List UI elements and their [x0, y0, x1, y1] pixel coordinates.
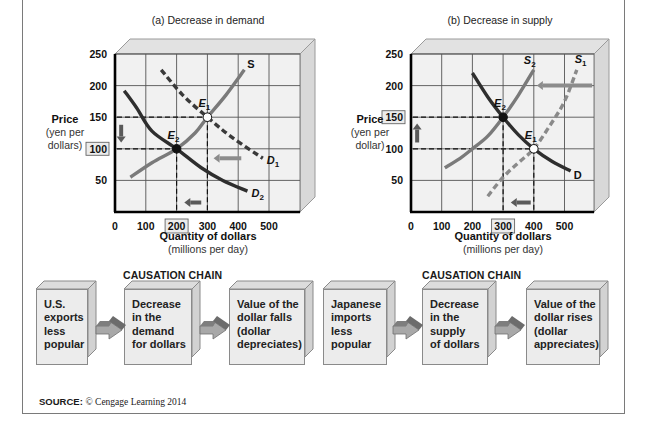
causation-step-line: depreciates) — [237, 338, 304, 351]
chart-b-decrease-in-supply: S2S1DE2E1(b) Decrease in supply501001502… — [351, 14, 609, 255]
curve-label-subscript: 1 — [582, 59, 587, 68]
x-tick-label: 500 — [556, 220, 574, 232]
causation-step-line: supply — [430, 325, 487, 338]
box-top-face — [229, 281, 313, 289]
source-text: © Cengage Learning 2014 — [85, 397, 186, 407]
panel-side-face — [300, 39, 315, 212]
x-axis-label: Quantity of dollars — [454, 230, 551, 242]
causation-step-box: Decreasein thesupplyof dollars — [422, 289, 496, 365]
causation-step-line: demand — [132, 325, 191, 338]
x-tick-label: 0 — [112, 220, 118, 232]
x-tick-label: 500 — [260, 220, 278, 232]
y-tick-label: 50 — [95, 174, 107, 186]
causation-step-box: Value of thedollar falls(dollardepreciat… — [229, 289, 313, 365]
causation-chain-title-b: CAUSATION CHAIN — [422, 269, 521, 281]
y-tick-label: 250 — [385, 48, 403, 60]
x-axis-sublabel: (millions per day) — [168, 243, 248, 255]
curve-label-subscript: 2 — [531, 60, 536, 69]
y-tick-label: 150 — [385, 111, 403, 123]
y-axis-sublabel: (yen per — [351, 126, 390, 138]
box-side-face — [88, 281, 96, 357]
causation-step-line: less — [44, 325, 87, 338]
causation-step-line: less — [331, 325, 386, 338]
causation-step-text: Japaneseimportslesspopular — [323, 289, 387, 365]
x-axis-sublabel: (millions per day) — [463, 243, 543, 255]
y-tick-label: 250 — [89, 48, 107, 60]
causation-step-line: appreciates) — [534, 338, 599, 351]
causation-step-line: dollar rises — [534, 311, 599, 324]
y-tick-label: 100 — [89, 143, 107, 155]
causation-step-line: Value of the — [237, 298, 304, 311]
box-side-face — [600, 281, 608, 357]
causation-arrow-icon — [495, 319, 523, 341]
y-axis-label: Price — [52, 113, 79, 125]
equilibrium-label-subscript: 1 — [532, 135, 537, 144]
causation-step-line: dollar falls — [237, 311, 304, 324]
box-top-face — [422, 281, 496, 289]
y-tick-label: 100 — [385, 143, 403, 155]
chart-title: (a) Decrease in demand — [152, 14, 265, 26]
charts-svg: SD1D2E1E2(a) Decrease in demand501001502… — [0, 0, 652, 270]
x-axis-label: Quantity of dollars — [159, 230, 256, 242]
y-tick-label: 50 — [391, 174, 403, 186]
causation-step-text: U.S.exportslesspopular — [36, 289, 88, 365]
causation-chain-title-a: CAUSATION CHAIN — [123, 269, 222, 281]
x-tick-label: 0 — [408, 220, 414, 232]
plot-area — [411, 54, 594, 212]
equilibrium-label-subscript: 2 — [175, 135, 180, 144]
causation-step-line: imports — [331, 311, 386, 324]
x-tick-label: 100 — [137, 220, 155, 232]
box-top-face — [526, 281, 608, 289]
causation-arrow-icon — [96, 319, 124, 341]
causation-step-line: popular — [44, 338, 87, 351]
chart-title: (b) Decrease in supply — [447, 14, 553, 26]
panel-top-face — [115, 39, 315, 54]
causation-step-text: Value of thedollar falls(dollardepreciat… — [229, 289, 305, 365]
causation-step-line: in the — [430, 311, 487, 324]
causation-step-line: (dollar — [534, 325, 599, 338]
causation-step-text: Value of thedollar rises(dollarappreciat… — [526, 289, 600, 365]
causation-arrow-icon — [200, 319, 228, 341]
equilibrium-point-e1 — [203, 113, 212, 122]
x-tick-label: 100 — [433, 220, 451, 232]
causation-step-line: Japanese — [331, 298, 386, 311]
source-label: SOURCE: — [39, 396, 83, 407]
causation-step-line: in the — [132, 311, 191, 324]
causation-step-line: Decrease — [430, 298, 487, 311]
curve-label-subscript: 1 — [275, 160, 280, 169]
source-note: SOURCE: © Cengage Learning 2014 — [39, 396, 186, 407]
causation-step-text: Decreasein thedemandfor dollars — [124, 289, 192, 365]
panel-top-face — [411, 39, 609, 54]
curve-label-s: S — [247, 58, 254, 70]
causation-step-line: popular — [331, 338, 386, 351]
box-top-face — [36, 281, 96, 289]
box-top-face — [323, 281, 395, 289]
y-axis-label: Price — [357, 113, 384, 125]
box-top-face — [124, 281, 200, 289]
y-tick-label: 150 — [89, 111, 107, 123]
chart-a-decrease-in-demand: SD1D2E1E2(a) Decrease in demand501001502… — [46, 14, 315, 255]
y-tick-label: 200 — [385, 80, 403, 92]
causation-step-line: Value of the — [534, 298, 599, 311]
causation-step-box: Value of thedollar rises(dollarappreciat… — [526, 289, 608, 365]
y-axis-sublabel: dollars) — [48, 139, 82, 151]
equilibrium-label-subscript: 2 — [501, 103, 506, 112]
causation-step-line: of dollars — [430, 338, 487, 351]
causation-step-line: Decrease — [132, 298, 191, 311]
causation-step-line: for dollars — [132, 338, 191, 351]
equilibrium-label-subscript: 1 — [206, 103, 211, 112]
causation-step-box: Decreasein thedemandfor dollars — [124, 289, 200, 365]
box-side-face — [192, 281, 200, 357]
y-axis-sublabel: (yen per — [46, 126, 85, 138]
panel-side-face — [594, 39, 609, 212]
curve-label-subscript: 2 — [259, 193, 264, 202]
causation-step-box: U.S.exportslesspopular — [36, 289, 96, 365]
causation-step-box: Japaneseimportslesspopular — [323, 289, 395, 365]
causation-step-text: Decreasein thesupplyof dollars — [422, 289, 488, 365]
causation-step-line: U.S. — [44, 298, 87, 311]
equilibrium-point-e2 — [172, 145, 181, 154]
y-axis-sublabel: dollar) — [355, 139, 384, 151]
curve-label-d: D — [574, 169, 582, 181]
y-tick-label: 200 — [89, 80, 107, 92]
causation-step-line: exports — [44, 311, 87, 324]
